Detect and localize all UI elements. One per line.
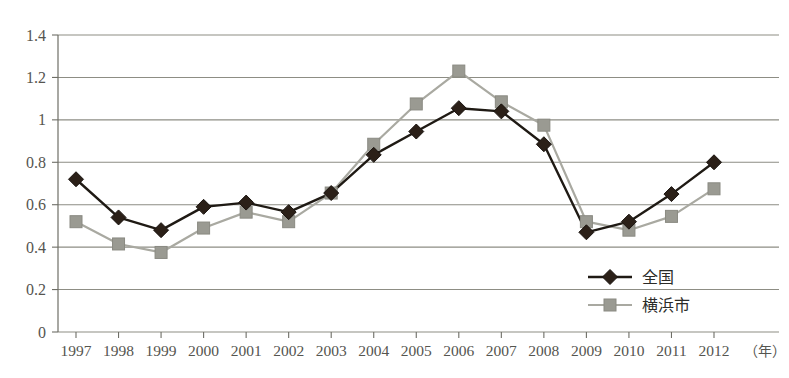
- x-axis-unit-label: （年）: [744, 343, 786, 359]
- chart-legend: 全国横浜市: [588, 269, 690, 314]
- y-axis-tick-label: 0.6: [26, 196, 46, 213]
- data-point-marker: [154, 223, 169, 238]
- gridlines-group: [58, 35, 779, 332]
- x-axis-tick-label: 2007: [486, 342, 517, 359]
- y-axis-tick-label: 0.8: [26, 154, 46, 171]
- data-point-marker: [708, 183, 720, 195]
- data-point-marker: [538, 119, 550, 131]
- y-axis-tick-label: 0.2: [26, 281, 46, 298]
- y-axis-tick-label: 0: [38, 324, 46, 341]
- x-axis-tick-label: 2000: [188, 342, 219, 359]
- x-axis-tick-label: 2006: [443, 342, 474, 359]
- data-point-marker: [409, 124, 424, 139]
- x-axis-tick-label: 2004: [358, 342, 389, 359]
- data-point-marker: [70, 216, 82, 228]
- data-point-marker: [665, 210, 677, 222]
- data-point-marker: [196, 199, 211, 214]
- x-axis-tick-label: 2001: [231, 342, 262, 359]
- y-axis-tick-label: 1.4: [26, 27, 46, 44]
- x-axis-tick-label: 1999: [146, 342, 177, 359]
- data-point-marker: [410, 98, 422, 110]
- y-axis-tick-label: 0.4: [26, 239, 46, 256]
- x-axis-unit-label: （年）: [744, 343, 786, 359]
- x-axis-tick-label: 2012: [699, 342, 730, 359]
- x-axis-tick-label: 2010: [613, 342, 644, 359]
- x-axis-tick-label: 2002: [273, 342, 304, 359]
- x-axis-tick-label: 1998: [103, 342, 134, 359]
- data-point-marker: [155, 246, 167, 258]
- legend-marker-icon: [604, 299, 616, 311]
- x-axis-tick-label: 2003: [316, 342, 347, 359]
- data-point-marker: [198, 222, 210, 234]
- x-axis-tick-label: 2008: [528, 342, 559, 359]
- y-axis-ticks-group: [52, 35, 58, 332]
- x-axis-tick-label: 2005: [401, 342, 432, 359]
- chart-plot-svg: 00.20.40.60.811.21.4 1997199819992000200…: [0, 0, 789, 378]
- data-point-marker: [451, 101, 466, 116]
- x-axis-tick-label: 2009: [571, 342, 602, 359]
- y-axis-tick-label: 1.2: [26, 69, 46, 86]
- legend-item-label: 全国: [642, 269, 674, 286]
- line-chart-figure: 00.20.40.60.811.21.4 1997199819992000200…: [0, 0, 789, 378]
- y-axis-tick-labels-group: 00.20.40.60.811.21.4: [26, 27, 46, 341]
- data-point-marker: [113, 238, 125, 250]
- x-axis-tick-label: 1997: [61, 342, 92, 359]
- data-point-marker: [453, 65, 465, 77]
- x-axis-ticks-group: [76, 332, 714, 338]
- legend-marker-icon: [603, 270, 618, 285]
- legend-item-label: 横浜市: [642, 297, 690, 314]
- series-line: [76, 108, 714, 232]
- y-axis-tick-label: 1: [38, 111, 46, 128]
- x-axis-tick-label: 2011: [656, 342, 686, 359]
- x-axis-tick-labels-group: 1997199819992000200120022003200420052006…: [61, 342, 730, 359]
